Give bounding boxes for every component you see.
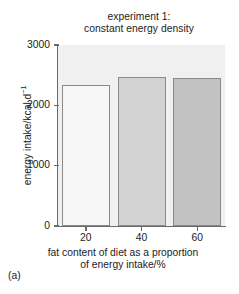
x-tick-mark bbox=[85, 226, 86, 231]
y-tick-mark bbox=[54, 165, 59, 166]
x-axis-title: fat content of diet as a proportion of e… bbox=[20, 247, 226, 271]
plot-area bbox=[58, 45, 225, 226]
y-axis-title: energy intake/kcal d−1 bbox=[23, 45, 34, 225]
y-tick-mark bbox=[54, 44, 59, 45]
x-tick-label: 60 bbox=[175, 233, 219, 243]
x-axis-title-line-2: of energy intake/% bbox=[20, 259, 226, 271]
bar-category-40 bbox=[118, 77, 166, 226]
y-tick-mark bbox=[54, 105, 59, 106]
panel-label: (a) bbox=[8, 271, 21, 281]
x-tick-mark bbox=[197, 226, 198, 231]
chart-title-line-2: constant energy density bbox=[48, 23, 230, 35]
x-axis-title-line-1: fat content of diet as a proportion bbox=[20, 247, 226, 259]
chart-title-line-1: experiment 1: bbox=[48, 11, 230, 23]
x-tick-label: 40 bbox=[120, 233, 164, 243]
chart-title: experiment 1: constant energy density bbox=[48, 11, 230, 35]
figure-panel-a: experiment 1: constant energy density 01… bbox=[0, 0, 239, 294]
x-tick-mark bbox=[141, 226, 142, 231]
bar-category-20 bbox=[62, 85, 110, 226]
y-axis-title-exponent: −1 bbox=[19, 85, 28, 93]
y-axis-title-text: energy intake/kcal d bbox=[22, 94, 33, 186]
bar-category-60 bbox=[173, 78, 221, 226]
x-tick-label: 20 bbox=[64, 233, 108, 243]
